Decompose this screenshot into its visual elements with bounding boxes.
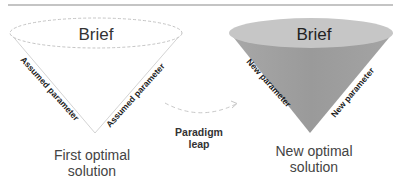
leap-label-line1: Paradigm (175, 126, 223, 138)
left-caption-line2: solution (68, 163, 116, 179)
left-brief-label: Brief (79, 25, 114, 44)
left-cone: Brief Assumed parameter Assumed paramete… (10, 18, 182, 179)
right-cone: Brief New parameter New parameter New op… (229, 18, 393, 175)
paradigm-leap-diagram: Brief Assumed parameter Assumed paramete… (0, 0, 403, 188)
right-cone-body (230, 33, 393, 133)
right-caption-line2: solution (290, 159, 338, 175)
right-caption-line1: New optimal (275, 143, 352, 159)
leap-arrow-curve (165, 103, 236, 113)
left-caption-line1: First optimal (54, 147, 130, 163)
right-brief-label: Brief (297, 25, 332, 44)
paradigm-leap-transition: Paradigm leap (165, 101, 237, 150)
leap-label-line2: leap (188, 138, 209, 150)
